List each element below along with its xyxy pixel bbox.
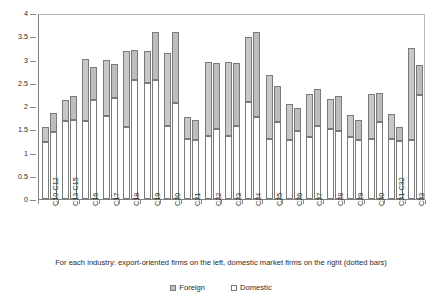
x-axis-tick <box>425 200 426 204</box>
y-axis-tick <box>30 37 36 38</box>
bar-export-oriented <box>408 48 415 199</box>
x-axis-tick <box>384 200 385 204</box>
chart-container: 00.511.522.533.54 C10-C12C13-C15C16C17C1… <box>0 0 442 302</box>
x-axis-tick <box>38 200 39 204</box>
y-axis-tick-label: 1 <box>0 150 28 157</box>
x-axis-tick <box>58 200 59 204</box>
y-axis-tick <box>30 154 36 155</box>
x-axis-tick <box>262 200 263 204</box>
x-axis-tick <box>140 200 141 204</box>
y-axis-tick <box>30 200 36 201</box>
y-axis-tick <box>30 177 36 178</box>
x-axis-tick <box>323 200 324 204</box>
chart-legend: Foreign Domestic <box>0 283 442 292</box>
x-axis-tick <box>201 200 202 204</box>
legend-item-foreign: Foreign <box>170 283 205 292</box>
bar-group <box>39 15 426 199</box>
x-axis-tick <box>242 200 243 204</box>
x-axis-tick <box>99 200 100 204</box>
bar-segment-upper <box>408 48 415 140</box>
chart-caption: For each industry: export-oriented firms… <box>0 258 442 267</box>
legend-label-foreign: Foreign <box>179 283 205 292</box>
bar-segment-lower <box>408 140 415 199</box>
x-axis-tick <box>344 200 345 204</box>
y-axis-tick <box>30 130 36 131</box>
y-axis-tick-label: 0.5 <box>0 173 28 180</box>
y-axis-tick <box>30 61 36 62</box>
y-axis-tick-label: 1.5 <box>0 126 28 133</box>
legend-swatch-domestic-icon <box>231 285 237 291</box>
y-axis-tick-label: 4 <box>0 10 28 17</box>
x-axis-tick <box>221 200 222 204</box>
legend-label-domestic: Domestic <box>240 283 272 292</box>
bar-segment-upper <box>416 65 423 95</box>
x-axis-tick <box>181 200 182 204</box>
x-axis-tick <box>405 200 406 204</box>
bar-domestic-market <box>416 65 423 199</box>
x-axis-tick <box>119 200 120 204</box>
x-axis-tick <box>282 200 283 204</box>
legend-swatch-foreign-icon <box>170 285 176 291</box>
legend-item-domestic: Domestic <box>231 283 272 292</box>
bars-layer <box>39 15 424 199</box>
y-axis-tick-label: 0 <box>0 196 28 203</box>
y-axis-tick <box>30 107 36 108</box>
y-axis-tick <box>30 14 36 15</box>
y-axis-tick-label: 2.5 <box>0 80 28 87</box>
bar-segment-lower <box>416 95 423 199</box>
y-axis-tick <box>30 84 36 85</box>
x-axis-tick <box>303 200 304 204</box>
y-axis-tick-label: 3 <box>0 57 28 64</box>
x-axis-tick <box>79 200 80 204</box>
y-axis-tick-label: 2 <box>0 103 28 110</box>
x-axis-tick <box>364 200 365 204</box>
y-axis-tick-label: 3.5 <box>0 33 28 40</box>
plot-area <box>38 14 425 200</box>
x-axis-tick <box>160 200 161 204</box>
